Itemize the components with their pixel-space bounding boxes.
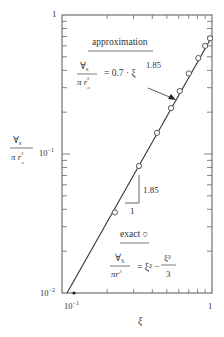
approximation-formula: = 0.7 · ξ [104, 68, 137, 79]
y-tick-10-1: 10−1 [39, 147, 54, 158]
approximation-exponent: 1.85 [146, 60, 161, 70]
exact-data-point [207, 36, 212, 41]
exact-data-point [136, 163, 141, 168]
plot-frame [62, 15, 212, 293]
y-tick-1: 1 [52, 9, 57, 19]
exact-data-point [177, 88, 182, 93]
svg-text:πr3: πr3 [111, 269, 122, 279]
svg-text:π ro3: π ro3 [11, 151, 24, 165]
x-axis-label: ξ [138, 315, 143, 327]
x-tick-10-1: 10−1 [64, 300, 79, 311]
exact-formula: = ξ² − [137, 262, 160, 273]
svg-text:3: 3 [166, 269, 171, 279]
exact-data-point [186, 71, 191, 76]
svg-text:∀s: ∀s [80, 60, 89, 72]
slope-run-label: 1 [130, 206, 135, 216]
line-start-dot [72, 291, 75, 294]
exact-legend: exact ○ ∀S πr3 = ξ² − ξ³ 3 [110, 229, 176, 279]
axis-ticks [62, 15, 212, 293]
approximation-legend: approximation ∀s π ro3 = 0.7 · ξ 1.85 [77, 37, 161, 90]
exact-title: exact ○ [120, 229, 148, 239]
y-axis-label: ∀s π ro3 [10, 134, 33, 165]
y-tick-10-2: 10−2 [40, 287, 55, 298]
slope-triangle [125, 175, 139, 203]
exact-data-point [112, 210, 117, 215]
exact-data-point [196, 55, 201, 60]
exact-data-point [168, 105, 173, 110]
exact-data-point [203, 43, 208, 48]
annotation-arrow [148, 88, 172, 98]
approximation-title: approximation [92, 37, 148, 47]
svg-text:∀s: ∀s [13, 134, 22, 146]
svg-text:π ro3: π ro3 [77, 76, 90, 90]
exact-data-point [154, 130, 159, 135]
slope-rise-label: 1.85 [143, 185, 159, 195]
svg-text:∀S: ∀S [115, 252, 124, 264]
chart: 1 1.85 1 10−1 10−2 10−1 1 ξ ∀s π ro3 app… [0, 0, 224, 337]
x-tick-1: 1 [208, 301, 212, 311]
svg-text:ξ³: ξ³ [164, 253, 171, 263]
